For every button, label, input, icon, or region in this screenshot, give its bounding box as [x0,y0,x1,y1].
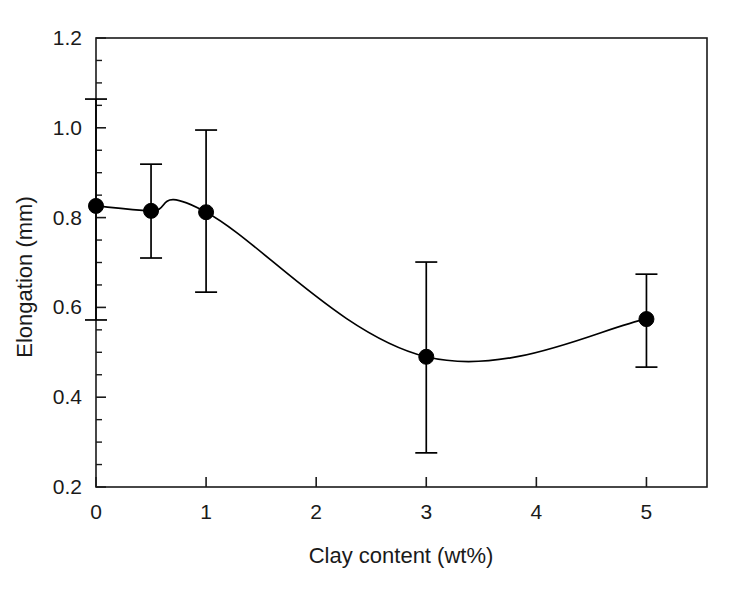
y-tick-label: 0.6 [53,295,82,318]
chart-figure: 0.20.40.60.81.01.2 012345 Clay content (… [0,0,735,592]
x-tick-label: 1 [200,500,212,523]
y-tick-label: 0.2 [53,475,82,498]
x-axis-title: Clay content (wt%) [309,543,494,568]
y-tick-label: 0.4 [53,385,83,408]
data-point-marker [89,198,104,213]
chart-svg: 0.20.40.60.81.01.2 012345 Clay content (… [0,0,735,592]
data-point-marker [144,203,159,218]
data-point-marker [639,312,654,327]
x-tick-label: 0 [90,500,102,523]
y-axis-title: Elongation (mm) [12,196,37,357]
x-tick-label: 4 [531,500,543,523]
x-tick-label: 5 [641,500,653,523]
data-point-marker [199,205,214,220]
y-tick-label: 0.8 [53,206,82,229]
y-tick-label: 1.2 [53,26,82,49]
data-point-marker [419,349,434,364]
x-tick-label: 3 [420,500,432,523]
chart-background [0,0,735,592]
x-tick-label: 2 [310,500,322,523]
y-tick-label: 1.0 [53,116,82,139]
